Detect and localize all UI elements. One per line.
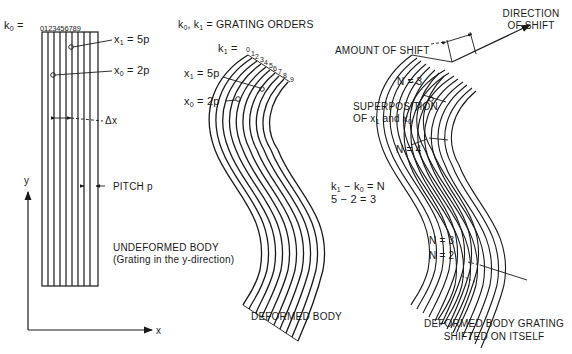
direction-of-shift-line2: OF SHIFT [496, 20, 566, 31]
undeformed-caption-line1: UNDEFORMED BODY [113, 242, 219, 253]
diagram-artwork [0, 0, 572, 354]
k1-equals: = [228, 42, 238, 54]
x0-value: = 2p [124, 64, 150, 76]
x-axis-label: x [156, 325, 161, 336]
k0-equals: = [14, 19, 24, 31]
superposition-x1: OF x [353, 113, 375, 124]
k1-label: k1 = [218, 43, 238, 57]
n-label-top: N = 3 [397, 76, 422, 87]
x1-value: = 5p [124, 33, 150, 45]
n-label-bottom-three: N = 3 [429, 235, 454, 246]
undeformed-grating [42, 32, 98, 286]
superposition-line1: SUPERPOSITION [353, 101, 438, 112]
order-9: 9 [290, 74, 294, 85]
undeformed-caption-line2: (Grating in the y-direction) [113, 254, 234, 265]
x1-label-deformed: x1 = 5p [184, 68, 220, 82]
orders-text: = GRATING ORDERS [203, 18, 313, 30]
eq-equals-n: = N [364, 180, 385, 192]
direction-of-shift-line1: DIRECTION [496, 8, 566, 19]
order-7: 7 [278, 66, 282, 77]
pitch-label: PITCH p [113, 181, 153, 192]
amount-of-shift-label: AMOUNT OF SHIFT [335, 45, 429, 56]
deformed-grating [209, 55, 324, 341]
order-8: 8 [283, 70, 287, 81]
delta-x-label: Δx [105, 115, 117, 126]
x0-label-deformed: x0 = 2p [184, 96, 220, 110]
y-axis-label: y [24, 175, 29, 186]
superposition-x0: and x [380, 113, 408, 124]
superposition-x0-sub: 0 [408, 118, 412, 125]
order-0: 0 [246, 44, 250, 55]
n-label-two: N = 2 [429, 250, 454, 261]
grating-orders-title: k0, k1 = GRATING ORDERS [178, 19, 314, 33]
shifted-caption-line2: SHIFTED ON ITSELF [414, 331, 572, 342]
x0-label-undeformed: x0 = 2p [114, 65, 150, 79]
superposition-line2: OF x1 and x0 [353, 113, 412, 127]
eq-minus-k0: − k [341, 180, 360, 192]
order-4: 4 [264, 57, 268, 68]
shifted-caption-line1: DEFORMED BODY GRATING [414, 318, 572, 329]
deformed-caption: DEFORMED BODY [251, 311, 342, 322]
order-difference-example: 5 − 2 = 3 [331, 194, 376, 205]
n-label-four: N = 4 [396, 144, 421, 155]
order-numbers-undeformed: 0123456789 [40, 23, 81, 34]
x0-value: = 2p [194, 95, 220, 107]
order-2: 2 [255, 51, 259, 62]
order-6: 6 [273, 63, 277, 74]
x1-value: = 5p [194, 67, 220, 79]
k0-label: k0 = [4, 20, 24, 34]
x1-label-undeformed: x1 = 5p [114, 34, 150, 48]
